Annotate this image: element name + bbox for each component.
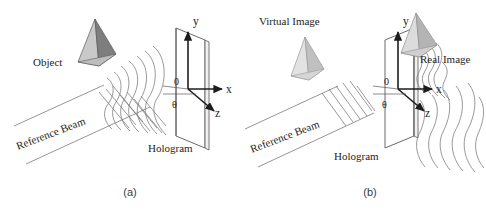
holography-figure: Object Reference Beam Hologram y x z 0 θ <box>0 0 486 214</box>
panel-a-object-label: Object <box>33 56 62 68</box>
panel-a-caption: (a) <box>100 186 160 198</box>
panel-a-x-axis-label: x <box>226 83 232 95</box>
panel-b-caption: (b) <box>340 186 400 198</box>
panel-b-theta-label: θ <box>382 99 387 110</box>
panel-b-hologram-label: Hologram <box>334 150 379 162</box>
panel-b-origin-label: 0 <box>384 76 389 87</box>
panel-b-real-image-label: Real Image <box>420 53 471 65</box>
panel-a-origin-label: 0 <box>174 76 179 87</box>
panel-b-virtual-image-label: Virtual Image <box>259 15 320 27</box>
panel-b-x-axis-label: x <box>436 83 442 95</box>
panel-a-z-axis-label: z <box>215 107 220 119</box>
panel-b-y-axis-label: y <box>403 15 409 28</box>
panel-a-hologram-label: Hologram <box>148 142 193 154</box>
panel-a-y-axis-label: y <box>193 15 199 28</box>
panel-b-z-axis-label: z <box>425 107 430 119</box>
panel-a-theta-label: θ <box>172 99 177 110</box>
